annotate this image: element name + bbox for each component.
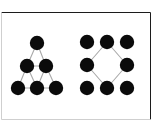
graph-node [11, 81, 25, 95]
graph-node [120, 81, 134, 95]
graph-node [20, 59, 34, 73]
graph-node [39, 59, 53, 73]
figure-container [0, 0, 160, 128]
graph-node [100, 35, 114, 49]
graph-figure-canvas [0, 0, 160, 128]
graph-node [100, 81, 114, 95]
graph-node [30, 81, 44, 95]
graph-node [80, 58, 94, 72]
graph-node [120, 58, 134, 72]
graph-node [80, 35, 94, 49]
graph-node [120, 35, 134, 49]
graph-node [30, 36, 44, 50]
graph-node [49, 81, 63, 95]
graph-node [80, 81, 94, 95]
